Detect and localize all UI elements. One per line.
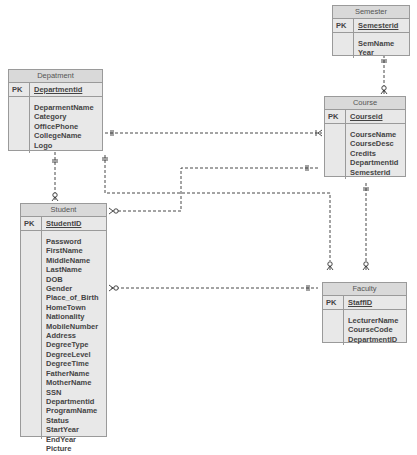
entity-course[interactable]: Course PKCourseid CourseName CourseDesc … — [324, 96, 406, 177]
entity-title: Student — [21, 204, 106, 217]
primary-key: StudentID — [42, 217, 81, 230]
attribute: Picture — [46, 444, 99, 453]
attribute: Place_of_Birth — [46, 293, 99, 302]
primary-key: Courseid — [346, 110, 383, 123]
entity-title: Semester — [333, 6, 409, 19]
attribute: Year — [358, 48, 394, 57]
primary-key: StaffID — [344, 296, 372, 309]
attribute: CourseDesc — [350, 139, 398, 148]
pk-label: PK — [21, 217, 42, 230]
attribute: CourseName — [350, 130, 398, 139]
attribute: DegreeType — [46, 340, 99, 349]
attribute: Departmentid — [46, 397, 99, 406]
attribute: DeparmentName — [34, 103, 94, 112]
entity-department[interactable]: Depatment PKDepartmentid DeparmentName C… — [8, 69, 103, 151]
pk-label: PK — [9, 83, 30, 96]
primary-key: Departmentid — [30, 83, 82, 96]
entity-student[interactable]: Student PKStudentID Password FirstName M… — [20, 203, 107, 437]
attribute: FatherName — [46, 369, 99, 378]
pk-label: PK — [323, 296, 344, 309]
attribute: FirstName — [46, 246, 99, 255]
attribute: DOB — [46, 275, 99, 284]
attribute: DegreeTime — [46, 359, 99, 368]
attribute: DegreeLevel — [46, 350, 99, 359]
attribute: StartYear — [46, 425, 99, 434]
attribute: Category — [34, 112, 94, 121]
attribute: Gender — [46, 284, 99, 293]
attribute: CourseCode — [348, 325, 398, 334]
attribute: ProgramName — [46, 406, 99, 415]
entity-title: Course — [325, 97, 405, 110]
attribute: SemName — [358, 39, 394, 48]
attribute: MobileNumber — [46, 322, 99, 331]
attribute: Nationality — [46, 312, 99, 321]
attribute: SSN — [46, 388, 99, 397]
entity-faculty[interactable]: Faculty PKStaffID LecturerName CourseCod… — [322, 282, 407, 343]
attribute: OfficePhone — [34, 122, 94, 131]
entity-title: Depatment — [9, 70, 102, 83]
attribute: HomeTown — [46, 303, 99, 312]
pk-label: PK — [325, 110, 346, 123]
attribute: Password — [46, 237, 99, 246]
attribute: MiddleName — [46, 256, 99, 265]
attribute: Address — [46, 331, 99, 340]
attribute: EndYear — [46, 435, 99, 444]
attribute: Semesterid — [350, 168, 398, 177]
attribute: LastName — [46, 265, 99, 274]
attribute: LecturerName — [348, 316, 398, 325]
attribute: MotherName — [46, 378, 99, 387]
entity-semester[interactable]: Semester PKSemesterid SemName Year — [332, 5, 410, 56]
attribute: DepartmentID — [348, 335, 398, 344]
entity-title: Faculty — [323, 283, 406, 296]
attribute: Credits — [350, 149, 398, 158]
attribute: CollegeName — [34, 131, 94, 140]
attribute: Departmentid — [350, 158, 398, 167]
attribute: Status — [46, 416, 99, 425]
pk-label: PK — [333, 19, 354, 32]
primary-key: Semesterid — [354, 19, 398, 32]
attribute: Logo — [34, 141, 94, 150]
